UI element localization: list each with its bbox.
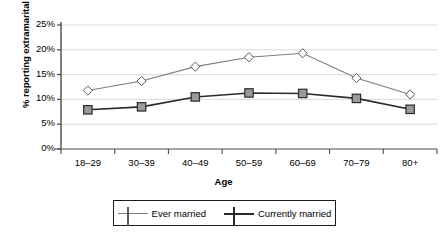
x-tick-label-1: 30–39	[114, 157, 170, 168]
data-point-1-3[interactable]	[245, 89, 253, 97]
data-point-1-6[interactable]	[406, 105, 414, 113]
legend-label-0: Ever married	[152, 208, 206, 219]
x-tick-label-3: 50–59	[221, 157, 277, 168]
data-point-1-5[interactable]	[352, 94, 360, 102]
data-point-1-1[interactable]	[137, 103, 145, 111]
chart-legend: Ever married Currently married	[113, 200, 336, 226]
data-point-1-0[interactable]	[84, 106, 92, 114]
data-point-0-2[interactable]	[191, 62, 200, 71]
data-point-1-4[interactable]	[299, 89, 307, 97]
legend-label-1: Currently married	[258, 208, 331, 219]
currently-married-marker-icon	[224, 207, 254, 219]
x-tick-label-5: 70–79	[328, 157, 384, 168]
legend-item-0[interactable]: Ever married	[118, 207, 206, 219]
legend-item-1[interactable]: Currently married	[224, 207, 331, 219]
x-tick-label-0: 18–29	[60, 157, 116, 168]
ever-married-marker-icon	[118, 207, 148, 219]
x-tick-label-6: 80+	[382, 157, 438, 168]
x-tick-label-2: 40–49	[167, 157, 223, 168]
data-point-0-6[interactable]	[406, 90, 415, 99]
chart-figure: % reporting extramarital sex 0%5%10%15%2…	[0, 0, 447, 242]
data-point-0-0[interactable]	[83, 86, 92, 95]
data-point-0-3[interactable]	[244, 53, 253, 62]
data-point-0-1[interactable]	[137, 76, 146, 85]
x-tick-label-4: 60–69	[275, 157, 331, 168]
data-point-1-2[interactable]	[191, 93, 199, 101]
x-axis-title: Age	[0, 176, 447, 187]
